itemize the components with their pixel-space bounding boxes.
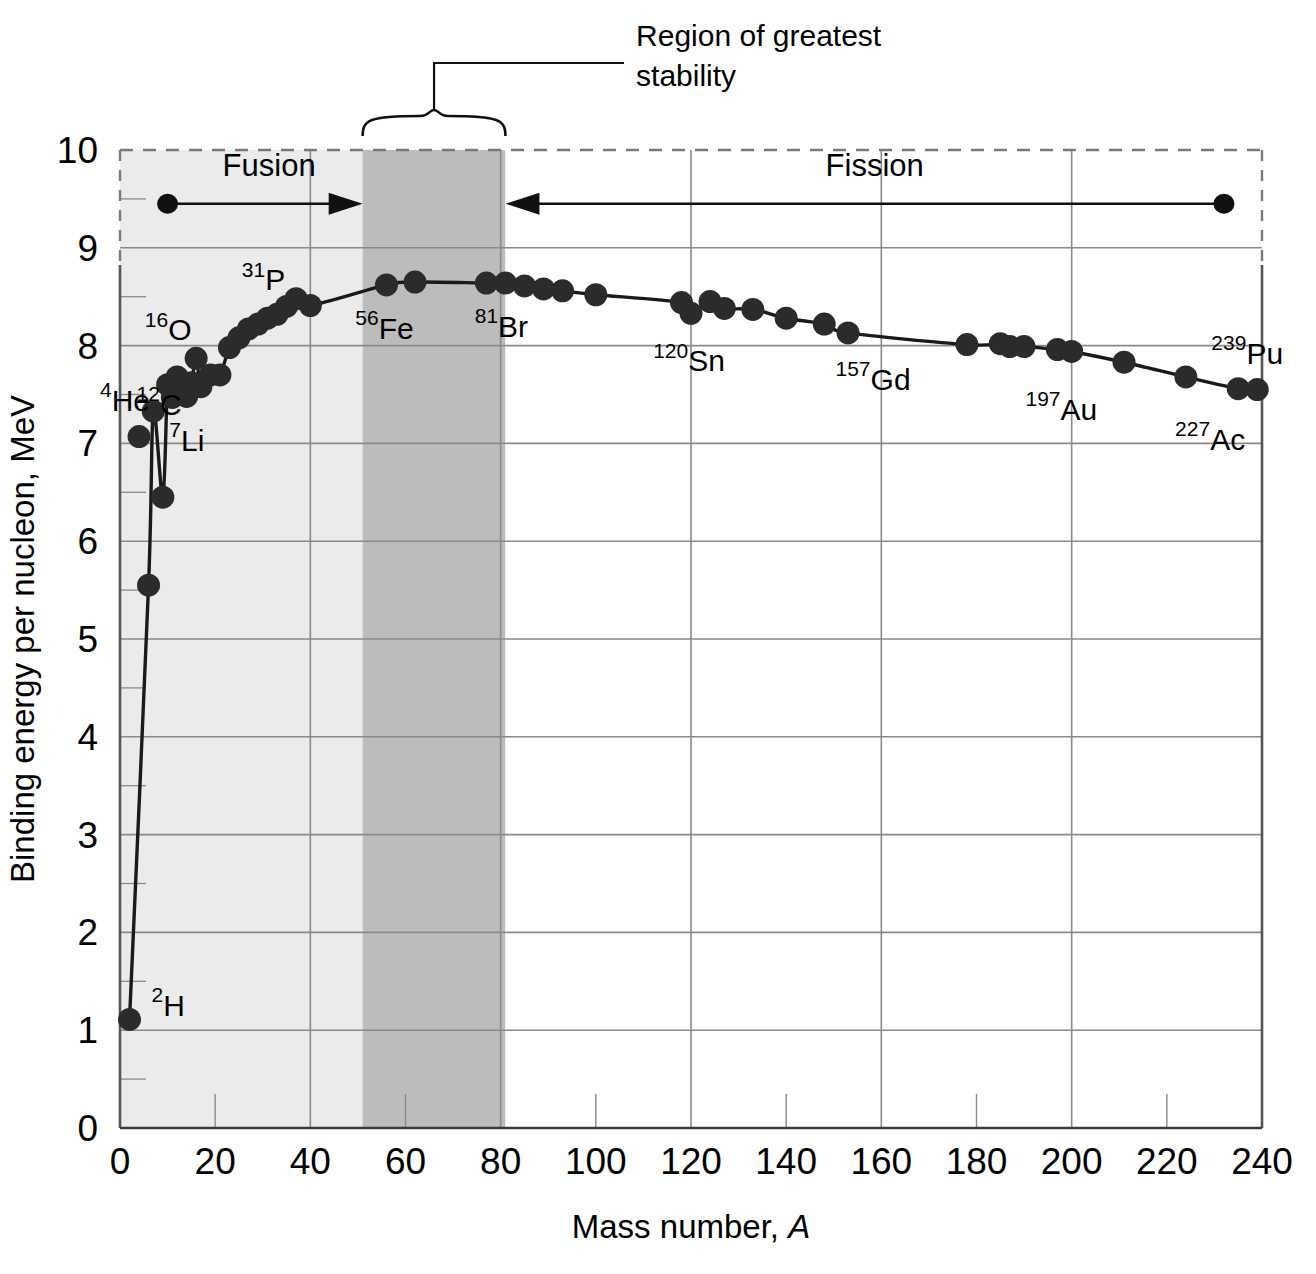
figure-root: 0204060801001201401601802002202400123456… [0, 0, 1316, 1274]
svg-text:180: 180 [946, 1141, 1008, 1182]
data-point [1060, 340, 1083, 363]
data-point [151, 486, 174, 509]
x-axis-title: Mass number, A [572, 1208, 810, 1245]
svg-text:220: 220 [1136, 1141, 1198, 1182]
svg-text:7: 7 [77, 423, 98, 464]
svg-text:1: 1 [77, 1010, 98, 1051]
svg-text:120: 120 [660, 1141, 722, 1182]
data-point [837, 321, 860, 344]
data-point [137, 574, 160, 597]
y-axis-title: Binding energy per nucleon, MeV [4, 395, 41, 883]
data-point [375, 273, 398, 296]
data-point [741, 298, 764, 321]
svg-text:80: 80 [480, 1141, 521, 1182]
data-point [1113, 351, 1136, 374]
svg-text:5: 5 [77, 619, 98, 660]
svg-text:60: 60 [385, 1141, 426, 1182]
data-point [128, 425, 151, 448]
region-label-line2: stability [636, 59, 736, 92]
svg-text:100: 100 [565, 1141, 627, 1182]
svg-text:0: 0 [110, 1141, 131, 1182]
data-point [1013, 335, 1036, 358]
svg-text:4: 4 [77, 717, 98, 758]
data-point [584, 283, 607, 306]
svg-text:10: 10 [57, 130, 98, 171]
svg-text:200: 200 [1041, 1141, 1103, 1182]
chart-svg: 0204060801001201401601802002202400123456… [0, 0, 1316, 1274]
svg-text:20: 20 [195, 1141, 236, 1182]
data-point [208, 363, 231, 386]
svg-text:0: 0 [77, 1108, 98, 1149]
data-point [1246, 378, 1269, 401]
data-point [118, 1008, 141, 1031]
svg-text:3: 3 [77, 815, 98, 856]
svg-text:8: 8 [77, 326, 98, 367]
stability-brace [363, 110, 506, 136]
data-point [713, 297, 736, 320]
x-axis-tick-labels: 020406080100120140160180200220240 [110, 1141, 1293, 1182]
stability-brace-annotation: Region of greateststability [363, 19, 882, 136]
data-point [404, 271, 427, 294]
svg-text:9: 9 [77, 228, 98, 269]
data-point [1174, 365, 1197, 388]
svg-text:240: 240 [1231, 1141, 1293, 1182]
binding-energy-chart: 0204060801001201401601802002202400123456… [0, 0, 1316, 1274]
data-point [775, 307, 798, 330]
data-point [955, 333, 978, 356]
svg-text:40: 40 [290, 1141, 331, 1182]
data-point [551, 279, 574, 302]
data-point [680, 302, 703, 325]
data-point [299, 294, 322, 317]
svg-text:140: 140 [755, 1141, 817, 1182]
svg-text:6: 6 [77, 521, 98, 562]
brace-leader-line [434, 63, 624, 110]
region-label-line1: Region of greatest [636, 19, 882, 52]
y-axis-tick-labels: 012345678910 [57, 130, 98, 1149]
svg-text:160: 160 [850, 1141, 912, 1182]
fusion-label: Fusion [223, 148, 316, 183]
data-point [813, 313, 836, 336]
svg-text:2: 2 [77, 912, 98, 953]
fission-label: Fission [826, 148, 924, 183]
